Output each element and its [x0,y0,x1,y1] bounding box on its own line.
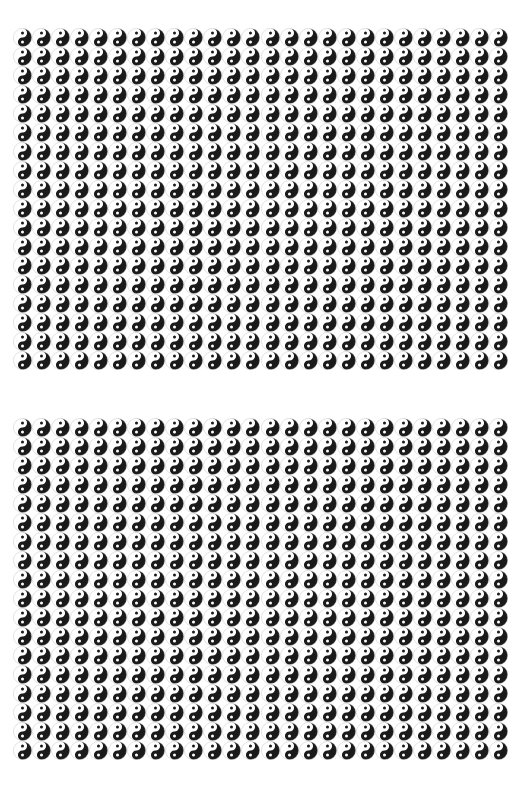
yin-yang-icon [489,199,508,218]
yin-yang-icon [394,237,413,256]
yin-yang-icon [280,456,299,475]
yin-yang-icon [184,85,203,104]
yin-yang-icon [261,589,280,608]
yin-yang-icon [470,47,489,66]
yin-yang-icon [299,256,318,275]
yin-yang-icon [184,123,203,142]
yin-yang-icon [13,722,32,741]
yin-yang-icon [261,275,280,294]
yin-yang-icon [318,294,337,313]
yin-yang-icon [280,684,299,703]
yin-yang-icon [13,275,32,294]
yin-yang-icon [337,47,356,66]
yin-yang-icon [146,123,165,142]
yin-yang-icon [203,703,222,722]
yin-yang-icon [203,570,222,589]
yin-yang-icon [70,532,89,551]
yin-yang-icon [299,275,318,294]
yin-yang-icon [356,123,375,142]
yin-yang-icon [280,351,299,370]
yin-yang-icon [299,142,318,161]
yin-yang-icon [241,294,260,313]
yin-yang-icon [489,494,508,513]
yin-yang-icon [127,627,146,646]
yin-yang-icon [32,646,51,665]
yin-yang-icon [203,684,222,703]
yin-yang-icon [241,275,260,294]
yin-yang-icon [470,351,489,370]
yin-yang-icon [70,703,89,722]
yin-yang-icon [375,494,394,513]
yin-yang-icon [489,218,508,237]
yin-yang-icon [241,589,260,608]
yin-yang-icon [108,123,127,142]
yin-yang-icon [108,256,127,275]
yin-yang-icon [375,646,394,665]
yin-yang-icon [146,703,165,722]
yin-yang-icon [184,332,203,351]
yin-yang-icon [337,741,356,760]
yin-yang-icon [318,66,337,85]
yin-yang-icon [299,218,318,237]
yin-yang-icon [318,28,337,47]
yin-yang-icon [165,589,184,608]
yin-yang-icon [70,684,89,703]
yin-yang-icon [146,332,165,351]
yin-yang-icon [184,104,203,123]
yin-yang-icon [108,66,127,85]
yin-yang-icon [356,199,375,218]
yin-yang-icon [413,532,432,551]
yin-yang-icon [32,28,51,47]
yin-yang-icon [13,66,32,85]
yin-yang-icon [127,418,146,437]
yin-yang-icon [432,513,451,532]
yin-yang-icon [32,66,51,85]
yin-yang-icon [337,332,356,351]
yin-yang-icon [165,513,184,532]
yin-yang-icon [51,475,70,494]
yin-yang-icon [146,684,165,703]
yin-yang-icon [51,741,70,760]
yin-yang-icon [89,627,108,646]
yin-yang-icon [241,627,260,646]
yin-yang-icon [241,418,260,437]
yin-yang-icon [356,28,375,47]
yin-yang-icon [318,418,337,437]
yin-yang-icon [51,722,70,741]
yin-yang-icon [394,741,413,760]
yin-yang-icon [51,551,70,570]
yin-yang-icon [89,237,108,256]
yin-yang-icon [413,608,432,627]
yin-yang-icon [222,513,241,532]
yin-yang-icon [470,104,489,123]
yin-yang-icon [299,123,318,142]
yin-yang-icon [451,275,470,294]
yin-yang-icon [489,589,508,608]
yin-yang-icon [356,703,375,722]
yin-yang-icon [280,627,299,646]
yin-yang-icon [375,161,394,180]
yin-yang-icon [413,294,432,313]
yin-yang-icon [318,627,337,646]
yin-yang-icon [108,722,127,741]
yin-yang-icon [337,123,356,142]
yin-yang-icon [356,684,375,703]
yin-yang-icon [241,123,260,142]
yin-yang-icon [108,513,127,532]
yin-yang-icon [261,418,280,437]
yin-yang-icon [470,313,489,332]
yin-yang-icon [356,608,375,627]
yin-yang-icon [89,142,108,161]
yin-yang-icon [470,142,489,161]
yin-yang-icon [299,313,318,332]
yin-yang-icon [222,551,241,570]
yin-yang-icon [261,570,280,589]
yin-yang-icon [127,313,146,332]
yin-yang-icon [89,570,108,589]
yin-yang-icon [394,437,413,456]
yin-yang-icon [261,199,280,218]
yin-yang-icon [89,551,108,570]
yin-yang-icon [394,256,413,275]
yin-yang-icon [13,532,32,551]
yin-yang-icon [32,703,51,722]
